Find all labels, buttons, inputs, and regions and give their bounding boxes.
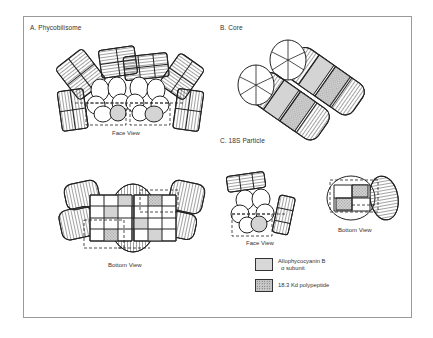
legend-item-18kd: 18.3 Kd polypeptide	[255, 279, 329, 292]
legend-label-allophycocyanin: Allophycocyanin B	[278, 258, 325, 265]
legend-label-alpha-subunit: α subunit	[278, 265, 325, 272]
phycobilisome-face-view-drawing	[0, 0, 433, 338]
particle-18s-bottom-view-drawing	[327, 174, 402, 222]
legend-item-allophycocyanin: Allophycocyanin B α subunit	[255, 258, 325, 272]
phycobilisome-bottom-view-drawing	[57, 179, 206, 252]
legend-label-18kd: 18.3 Kd polypeptide	[278, 279, 329, 289]
core-drawing	[238, 40, 368, 144]
legend-swatch-gray	[255, 258, 273, 271]
legend-swatch-stippled	[255, 279, 273, 292]
particle-18s-face-view-drawing	[226, 171, 296, 236]
